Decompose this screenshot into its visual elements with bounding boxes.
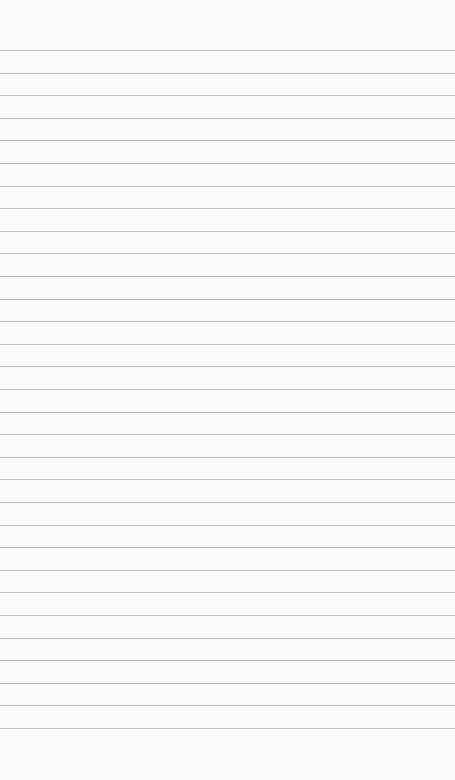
notepad-page xyxy=(0,0,455,780)
note-text-area[interactable] xyxy=(0,30,455,730)
